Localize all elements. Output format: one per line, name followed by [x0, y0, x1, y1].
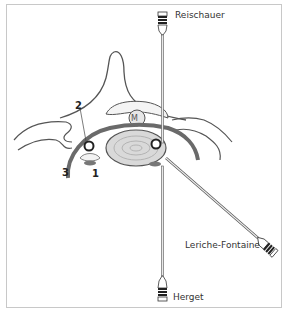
left-dark-node: [84, 161, 96, 166]
left-transverse-outline-lower: [18, 139, 72, 150]
herget-instrument: [158, 166, 167, 301]
left-vessel-ring: [85, 142, 94, 151]
label-2-leader: [80, 108, 86, 141]
left-transverse-outline-upper: [14, 122, 72, 142]
left-lower-structure: [80, 154, 100, 162]
structure-label-1: 1: [92, 168, 99, 179]
right-vessel-ring: [152, 140, 161, 149]
structure-label-3: 3: [62, 167, 69, 178]
herget-label: Herget: [173, 292, 204, 302]
cross-section-diagram: M: [0, 0, 289, 314]
svg-text:M: M: [131, 114, 138, 123]
reischauer-instrument: [158, 12, 167, 143]
reischauer-label: Reischauer: [175, 10, 225, 20]
structure-label-2: 2: [75, 100, 82, 111]
leriche-fontaine-label: Leriche-Fontaine: [185, 240, 260, 250]
right-dark-node: [149, 162, 161, 167]
